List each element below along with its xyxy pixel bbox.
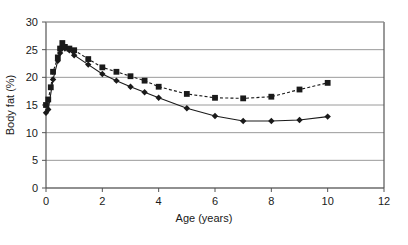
- data-point-marker-square: [114, 69, 120, 75]
- data-point-marker-square: [212, 95, 218, 101]
- data-point-marker-square: [240, 95, 246, 101]
- y-tick-label: 20: [26, 71, 38, 83]
- y-tick-label: 30: [26, 16, 38, 28]
- chart-background: [0, 0, 408, 245]
- data-point-marker-square: [48, 84, 54, 90]
- data-point-marker-square: [325, 80, 331, 86]
- x-tick-label: 0: [43, 195, 49, 207]
- data-point-marker-square: [142, 78, 148, 84]
- y-axis-title: Body fat (%): [4, 75, 16, 136]
- data-point-marker-square: [71, 47, 77, 53]
- data-point-marker-square: [45, 97, 51, 103]
- data-point-marker-square: [156, 84, 162, 90]
- y-tick-label: 15: [26, 99, 38, 111]
- data-point-marker-square: [297, 87, 303, 93]
- x-tick-label: 6: [212, 195, 218, 207]
- data-point-marker-square: [50, 69, 56, 75]
- y-tick-label: 25: [26, 44, 38, 56]
- y-tick-label: 0: [32, 182, 38, 194]
- data-point-marker-square: [99, 64, 105, 70]
- data-point-marker-square: [55, 55, 61, 61]
- chart-container: 024681012 051015202530 Age (years) Body …: [0, 0, 408, 245]
- data-point-marker-square: [128, 73, 134, 79]
- body-fat-vs-age-line-chart: 024681012 051015202530 Age (years) Body …: [0, 0, 408, 245]
- x-tick-label: 4: [156, 195, 162, 207]
- x-axis-title: Age (years): [176, 212, 233, 224]
- x-tick-label: 10: [322, 195, 334, 207]
- data-point-marker-square: [43, 102, 49, 108]
- x-tick-label: 8: [268, 195, 274, 207]
- y-tick-label: 10: [26, 127, 38, 139]
- x-tick-label: 12: [378, 195, 390, 207]
- data-point-marker-square: [184, 91, 190, 97]
- data-point-marker-square: [85, 56, 91, 62]
- data-point-marker-square: [268, 94, 274, 100]
- x-tick-label: 2: [99, 195, 105, 207]
- y-tick-label: 5: [32, 154, 38, 166]
